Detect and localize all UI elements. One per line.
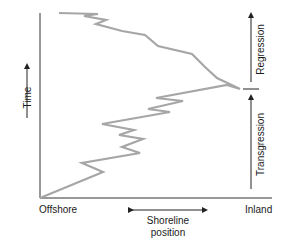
inland-label: Inland bbox=[245, 204, 272, 215]
shoreline-label-line2: position bbox=[138, 227, 198, 238]
shoreline-trajectory-line bbox=[40, 13, 240, 198]
regression-label: Regression bbox=[255, 20, 266, 80]
transgression-label: Transgression bbox=[255, 107, 266, 183]
offshore-label: Offshore bbox=[39, 204, 77, 215]
shoreline-label-line1: Shoreline bbox=[138, 215, 198, 226]
y-axis-label: Time bbox=[22, 83, 33, 113]
